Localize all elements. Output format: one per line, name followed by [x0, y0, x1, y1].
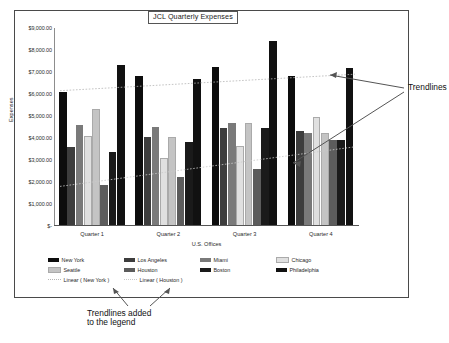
legend-row-1: New YorkLos AngelesMiamiChicago	[48, 257, 348, 267]
legend-item-trendline-2[interactable]: Linear ( Houston )	[124, 277, 183, 283]
bar	[261, 128, 269, 226]
bar	[92, 109, 100, 226]
bar	[220, 128, 228, 226]
bar	[84, 136, 92, 226]
legend-color-swatch	[276, 268, 287, 272]
annotation-legend-note-line2: to the legend	[87, 318, 151, 327]
x-axis-line	[54, 225, 359, 226]
legend-label: Miami	[214, 257, 228, 263]
legend-item-new-york[interactable]: New York	[48, 257, 84, 263]
y-tick-label: $9,000.00	[28, 25, 52, 31]
bar	[152, 127, 160, 226]
bar	[236, 146, 244, 226]
bar	[329, 140, 337, 226]
legend-color-swatch	[200, 268, 211, 272]
y-tick-label: $4,000.00	[28, 135, 52, 141]
bar	[144, 137, 152, 226]
y-tick-label: $6,000.00	[28, 91, 52, 97]
bar	[76, 125, 84, 226]
legend-item-philadelphia[interactable]: Philadelphia	[276, 267, 319, 273]
bar	[245, 123, 253, 226]
bar-group	[283, 28, 359, 226]
legend-line-swatch	[48, 279, 61, 280]
x-tick-label: Quarter 3	[233, 231, 257, 237]
plot-area	[54, 28, 359, 226]
bar	[135, 76, 143, 226]
bar	[346, 68, 354, 226]
y-tick-label: $-	[47, 223, 52, 229]
bar	[109, 152, 117, 226]
legend-row-3: Linear ( New York )Linear ( Houston )	[48, 277, 348, 287]
legend-color-swatch	[48, 258, 59, 262]
legend-item-miami[interactable]: Miami	[200, 257, 228, 263]
chart-title: JCL Quarterly Expenses	[148, 11, 238, 24]
y-axis-ticks: $9,000.00$8,000.00$7,000.00$6,000.00$5,0…	[0, 28, 52, 226]
bar	[59, 92, 67, 226]
bar	[228, 123, 236, 226]
bar	[100, 185, 108, 226]
legend-label: Philadelphia	[290, 267, 319, 273]
legend-item-seattle[interactable]: Seattle	[48, 267, 80, 273]
bar	[269, 41, 277, 226]
bar	[117, 65, 125, 226]
bar	[288, 76, 296, 226]
bar-group	[54, 28, 130, 226]
legend-color-swatch	[124, 268, 135, 272]
x-tick-label: Quarter 2	[157, 231, 181, 237]
bar	[337, 140, 345, 226]
annotation-trendlines-label: Trendlines	[408, 82, 447, 92]
legend-label: Seattle	[64, 267, 81, 273]
chart-screenshot: JCL Quarterly Expenses Expenses $9,000.0…	[0, 0, 449, 343]
x-tick-label: Quarter 4	[309, 231, 333, 237]
legend-color-swatch	[48, 267, 61, 273]
x-tick-label: Quarter 1	[80, 231, 104, 237]
bar	[185, 142, 193, 226]
x-axis-title: U.S. Offices	[54, 241, 359, 247]
bar	[67, 147, 75, 226]
bar	[321, 133, 329, 227]
legend-label: Chicago	[292, 257, 312, 263]
legend-color-swatch	[124, 258, 135, 262]
legend-item-los-angeles[interactable]: Los Angeles	[124, 257, 167, 263]
legend-item-boston[interactable]: Boston	[200, 267, 230, 273]
y-tick-label: $1,000.00	[28, 201, 52, 207]
bar	[160, 158, 168, 226]
y-tick-label: $8,000.00	[28, 47, 52, 53]
legend-color-swatch	[276, 257, 289, 263]
bar	[296, 131, 304, 226]
y-axis-line	[54, 28, 55, 226]
legend-item-chicago[interactable]: Chicago	[276, 257, 311, 263]
legend-line-swatch	[124, 279, 137, 280]
legend-item-houston[interactable]: Houston	[124, 267, 158, 273]
legend-item-trendline-1[interactable]: Linear ( New York )	[48, 277, 109, 283]
legend-color-swatch	[200, 258, 211, 262]
bar	[193, 79, 201, 226]
y-tick-label: $7,000.00	[28, 69, 52, 75]
y-tick-label: $3,000.00	[28, 157, 52, 163]
legend-label: Houston	[138, 267, 158, 273]
legend-label: Linear ( Houston )	[140, 277, 183, 283]
chart-legend: New YorkLos AngelesMiamiChicago SeattleH…	[48, 257, 348, 287]
bar	[212, 67, 220, 227]
annotation-legend-note: Trendlines added to the legend	[87, 309, 151, 328]
bar	[168, 137, 176, 226]
legend-label: New York	[62, 257, 85, 263]
legend-label: Los Angeles	[138, 257, 167, 263]
y-tick-label: $2,000.00	[28, 179, 52, 185]
bar	[177, 177, 185, 227]
bar	[304, 133, 312, 227]
bar-group	[130, 28, 206, 226]
bar-group	[207, 28, 283, 226]
legend-label: Boston	[214, 267, 231, 273]
bar	[313, 117, 321, 226]
y-tick-label: $5,000.00	[28, 113, 52, 119]
legend-row-2: SeattleHoustonBostonPhiladelphia	[48, 267, 348, 277]
bar	[253, 169, 261, 226]
legend-label: Linear ( New York )	[64, 277, 110, 283]
